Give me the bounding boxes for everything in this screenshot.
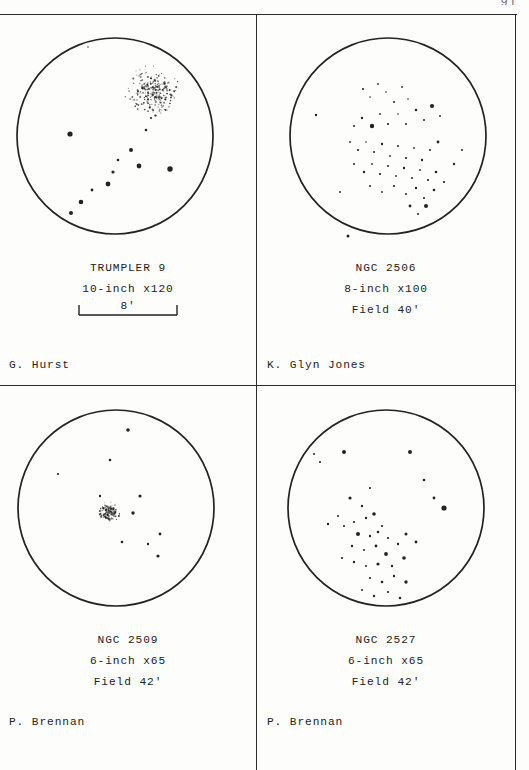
- star-point: [138, 494, 141, 497]
- star-point: [117, 159, 120, 162]
- star-point: [385, 91, 387, 93]
- star-point: [405, 157, 407, 159]
- star-point: [441, 505, 446, 510]
- star-point: [150, 117, 152, 119]
- star-point: [435, 171, 438, 174]
- star-point: [377, 83, 379, 85]
- star-point: [79, 200, 84, 205]
- star-point: [379, 173, 381, 175]
- star-point: [405, 533, 408, 536]
- star-point: [423, 479, 426, 482]
- star-point: [404, 580, 407, 583]
- star-point: [429, 149, 431, 151]
- star-point: [395, 175, 397, 177]
- field-label: Field 40': [258, 300, 514, 321]
- star-point: [377, 531, 380, 534]
- star-point: [387, 165, 389, 167]
- star-point: [369, 535, 371, 537]
- star-point: [427, 179, 429, 181]
- star-point: [339, 191, 341, 193]
- frame-right-border: [515, 14, 516, 770]
- caption-ngc-2506: NGC 2506 8-inch x100 Field 40': [258, 258, 514, 321]
- star-field: [313, 450, 447, 599]
- star-point: [379, 113, 381, 115]
- field-of-view-circle: [18, 410, 214, 606]
- star-point: [109, 459, 112, 462]
- star-point: [393, 101, 395, 103]
- star-point: [461, 149, 463, 151]
- star-point: [397, 145, 399, 147]
- star-point: [399, 597, 402, 600]
- star-point: [372, 512, 376, 516]
- star-point: [387, 591, 389, 593]
- star-point: [353, 125, 355, 127]
- field-of-view-circle: [290, 38, 486, 234]
- object-name: NGC 2509: [0, 630, 256, 651]
- scale-bar: [0, 302, 256, 318]
- instrument-label: 10-inch x120: [0, 279, 256, 300]
- star-field: [57, 428, 162, 557]
- star-point: [347, 235, 350, 238]
- star-point: [430, 104, 434, 108]
- star-point: [453, 163, 455, 165]
- star-point: [443, 181, 445, 183]
- star-point: [69, 211, 73, 215]
- star-point: [353, 163, 355, 165]
- star-point: [373, 151, 375, 153]
- star-point: [313, 453, 315, 455]
- star-point: [369, 185, 371, 187]
- star-point: [353, 521, 355, 523]
- star-point: [389, 155, 391, 157]
- caption-ngc-2509: NGC 2509 6-inch x65 Field 42': [0, 630, 256, 693]
- dense-cluster-stipple: [99, 502, 120, 522]
- star-point: [376, 562, 379, 565]
- panel-ngc-2506: NGC 2506 8-inch x100 Field 40' K. Glyn J…: [258, 14, 514, 385]
- star-point: [363, 171, 365, 173]
- star-point: [381, 581, 384, 584]
- star-point: [402, 556, 406, 560]
- star-field: [67, 46, 172, 215]
- star-point: [361, 589, 363, 591]
- star-point: [365, 565, 367, 567]
- star-point: [106, 182, 111, 187]
- star-point: [351, 545, 353, 547]
- star-point: [407, 98, 409, 100]
- dense-cluster-stipple: [125, 65, 179, 116]
- star-point: [147, 543, 149, 545]
- observation-page: 91 TRUMPLER 9 10-inch x120 8' G. Hurst N…: [0, 0, 529, 770]
- field-label: Field 42': [0, 672, 256, 693]
- star-point: [167, 166, 172, 171]
- star-point: [381, 191, 383, 193]
- star-point: [405, 193, 407, 195]
- object-name: NGC 2527: [258, 630, 514, 651]
- star-point: [423, 197, 425, 199]
- star-point: [421, 159, 423, 161]
- panel-ngc-2509: NGC 2509 6-inch x65 Field 42' P. Brennan: [0, 386, 256, 757]
- star-point: [131, 511, 134, 514]
- sketch-trumpler-9: [0, 14, 256, 264]
- panel-divider-vertical: [256, 14, 257, 770]
- star-point: [362, 88, 364, 90]
- star-point: [99, 495, 101, 497]
- star-point: [371, 163, 373, 165]
- star-point: [67, 131, 72, 136]
- star-point: [391, 565, 393, 567]
- star-point: [315, 114, 317, 116]
- star-point: [369, 96, 371, 98]
- field-label: Field 42': [258, 672, 514, 693]
- star-point: [356, 532, 360, 536]
- star-point: [91, 189, 94, 192]
- star-point: [327, 523, 329, 525]
- star-point: [405, 123, 407, 125]
- observer-name: P. Brennan: [9, 716, 85, 728]
- star-point: [415, 187, 417, 189]
- field-of-view-circle: [17, 38, 213, 234]
- star-point: [433, 189, 436, 192]
- instrument-label: 6-inch x65: [0, 651, 256, 672]
- caption-trumpler-9: TRUMPLER 9 10-inch x120: [0, 258, 256, 300]
- sketch-ngc-2509: [0, 386, 256, 636]
- star-point: [349, 141, 351, 143]
- panel-ngc-2527: NGC 2527 6-inch x65 Field 42' P. Brennan: [258, 386, 514, 757]
- star-point: [409, 205, 412, 208]
- star-point: [397, 543, 399, 545]
